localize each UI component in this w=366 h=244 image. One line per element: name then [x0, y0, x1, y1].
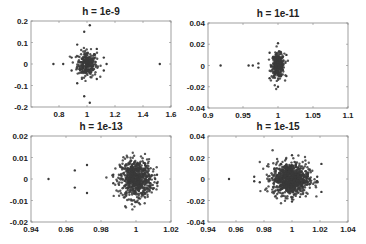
- x-tick-label: 1: [276, 111, 281, 120]
- y-tick-label: 0.02: [189, 154, 205, 163]
- y-tick-label: 0: [201, 62, 206, 71]
- x-tick-label: 1.4: [137, 110, 149, 119]
- subplot-grid: h = 1e-90.811.21.41.6-0.2-0.100.10.2h = …: [0, 0, 366, 244]
- y-tick-label: -0.2: [14, 103, 28, 112]
- y-tick-label: -0.02: [187, 83, 206, 92]
- y-tick-label: 0.01: [12, 154, 28, 163]
- y-tick-label: -0.01: [10, 197, 29, 206]
- y-tick-label: -0.02: [187, 197, 206, 206]
- subplot-title: h = 1e-13: [79, 121, 123, 132]
- x-tick-label: 1.6: [165, 110, 177, 119]
- y-tick-label: 0: [24, 60, 29, 69]
- x-tick-label: 1: [134, 225, 139, 234]
- y-tick-label: 0.02: [12, 132, 28, 141]
- x-tick-label: 1.02: [312, 225, 328, 234]
- x-tick-label: 0.96: [58, 225, 74, 234]
- x-tick-label: 1: [290, 225, 295, 234]
- y-tick-label: 0.04: [189, 132, 205, 141]
- x-tick-label: 0.96: [228, 225, 244, 234]
- subplot-4: h = 1e-150.940.960.9811.021.04-0.04-0.02…: [187, 121, 357, 234]
- y-tick-label: -0.04: [187, 104, 206, 113]
- y-tick-label: 0.04: [189, 19, 205, 28]
- scatter-points: [52, 24, 161, 104]
- x-tick-label: 0.8: [53, 110, 65, 119]
- y-tick-label: 0: [201, 175, 206, 184]
- y-tick-label: -0.04: [187, 218, 206, 227]
- subplot-title: h = 1e-9: [82, 6, 120, 17]
- x-tick-label: 1.02: [163, 225, 179, 234]
- x-tick-label: 1.04: [340, 225, 356, 234]
- x-tick-label: 1.05: [305, 111, 321, 120]
- y-tick-label: -0.1: [14, 82, 28, 91]
- x-tick-label: 0.95: [235, 111, 251, 120]
- subplot-1: h = 1e-90.811.21.41.6-0.2-0.100.10.2: [14, 6, 177, 119]
- y-tick-label: 0.2: [17, 17, 29, 26]
- x-tick-label: 0.98: [93, 225, 109, 234]
- x-tick-label: 0.98: [256, 225, 272, 234]
- y-tick-label: 0: [24, 175, 29, 184]
- scatter-points: [228, 149, 323, 204]
- subplot-title: h = 1e-15: [256, 121, 300, 132]
- x-tick-label: 1.2: [109, 110, 121, 119]
- figure: h = 1e-90.811.21.41.6-0.2-0.100.10.2h = …: [0, 0, 366, 244]
- subplot-3: h = 1e-130.940.960.9811.02-0.02-0.0100.0…: [10, 121, 180, 234]
- x-tick-label: 1.1: [342, 111, 354, 120]
- x-tick-label: 1: [85, 110, 90, 119]
- scatter-points: [219, 42, 289, 90]
- axes-box: [31, 21, 171, 107]
- y-tick-label: 0.02: [189, 40, 205, 49]
- y-tick-label: 0.1: [17, 39, 29, 48]
- y-tick-label: -0.02: [10, 218, 29, 227]
- scatter-points: [47, 152, 159, 211]
- subplot-2: h = 1e-110.90.9511.051.1-0.04-0.0200.020…: [187, 8, 354, 120]
- subplot-title: h = 1e-11: [257, 8, 300, 19]
